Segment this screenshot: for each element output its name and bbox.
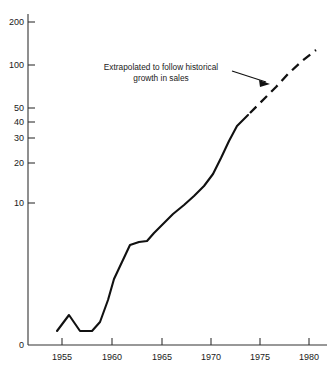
x-tick-label-1980: 1980 — [292, 352, 326, 362]
line-chart: 200 100 50 40 30 20 10 0 1955 1960 1965 … — [0, 0, 333, 374]
x-tick-label-1955: 1955 — [45, 352, 79, 362]
y-tick-label-10: 10 — [2, 198, 24, 208]
y-tick-label-0: 0 — [2, 340, 24, 350]
x-tick-label-1965: 1965 — [145, 352, 179, 362]
y-tick-label-40: 40 — [2, 117, 24, 127]
x-tick-label-1970: 1970 — [194, 352, 228, 362]
x-tick-label-1960: 1960 — [95, 352, 129, 362]
y-tick-label-200: 200 — [2, 17, 24, 27]
x-axis-ticks — [62, 338, 309, 345]
series-historical-line — [57, 115, 248, 331]
y-axis-ticks — [28, 22, 35, 203]
annotation-label-line2: growth in sales — [90, 73, 232, 84]
annotation-arrow — [232, 71, 270, 87]
y-tick-label-100: 100 — [2, 60, 24, 70]
y-tick-label-20: 20 — [2, 158, 24, 168]
y-tick-label-30: 30 — [2, 133, 24, 143]
x-tick-label-1975: 1975 — [243, 352, 277, 362]
annotation-label-line1: Extrapolated to follow historical — [90, 62, 232, 73]
chart-plot-area — [0, 0, 333, 374]
y-tick-label-50: 50 — [2, 103, 24, 113]
